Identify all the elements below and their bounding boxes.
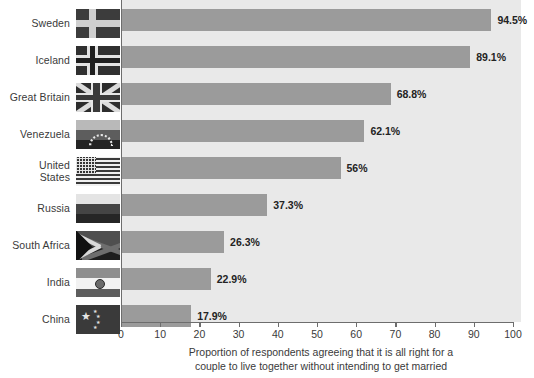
x-tick-label: 0 [118, 328, 124, 340]
china-flag: ★★★★★ [75, 304, 121, 335]
bar-great-britain [121, 83, 391, 105]
bar-value-label: 89.1% [470, 46, 506, 68]
sweden-flag [75, 8, 121, 39]
x-tick-label: 100 [504, 328, 522, 340]
x-tick [356, 323, 357, 327]
x-tick [239, 323, 240, 327]
bar-value-label: 17.9% [191, 305, 227, 327]
x-tick-label: 30 [233, 328, 245, 340]
category-row: United States [0, 153, 121, 190]
bar-value-label: 37.3% [267, 194, 303, 216]
category-label-south-africa: South Africa [12, 240, 75, 252]
y-axis-line [121, 0, 122, 323]
bar-value-label: 26.3% [224, 231, 260, 253]
iceland-flag [75, 45, 121, 76]
x-tick-label: 40 [272, 328, 284, 340]
category-label-india: India [47, 277, 75, 289]
x-tick-label: 80 [429, 328, 441, 340]
russia-flag [75, 193, 121, 224]
x-tick [474, 323, 475, 327]
x-axis-title: Proportion of respondents agreeing that … [121, 345, 521, 373]
bar-united-states [121, 157, 341, 179]
bar-venezuela [121, 120, 364, 142]
bar-south-africa [121, 231, 224, 253]
bar-value-label: 94.5% [491, 9, 527, 31]
category-label-great-britain: Great Britain [10, 92, 75, 104]
bar-value-label: 56% [341, 157, 368, 179]
bar-sweden [121, 9, 491, 31]
x-tick [395, 323, 396, 327]
category-row: India [0, 264, 121, 301]
category-row: China★★★★★ [0, 301, 121, 338]
category-label-sweden: Sweden [31, 18, 75, 30]
category-label-venezuela: Venezuela [20, 129, 75, 141]
united-states-flag [75, 156, 121, 187]
india-flag [75, 267, 121, 298]
x-tick-label: 50 [311, 328, 323, 340]
category-row: Great Britain [0, 79, 121, 116]
category-row: Russia [0, 190, 121, 227]
x-tick [317, 323, 318, 327]
x-tick [160, 323, 161, 327]
south-africa-flag [75, 230, 121, 261]
x-tick [121, 323, 122, 327]
bar-china [121, 305, 191, 327]
category-row: Venezuela [0, 116, 121, 153]
x-tick-label: 90 [468, 328, 480, 340]
category-row: Iceland [0, 42, 121, 79]
category-label-russia: Russia [37, 203, 75, 215]
bar-chart: SwedenIcelandGreat BritainVenezuelaUnite… [0, 0, 534, 378]
x-axis-title-line-2: couple to live together without intendin… [121, 359, 521, 373]
category-label-china: China [42, 314, 75, 326]
bar-value-label: 68.8% [391, 83, 427, 105]
category-label-iceland: Iceland [35, 55, 75, 67]
x-tick [199, 323, 200, 327]
category-label-united-states: United States [39, 160, 75, 183]
x-tick-label: 60 [350, 328, 362, 340]
category-row: South Africa [0, 227, 121, 264]
x-axis-title-line-1: Proportion of respondents agreeing that … [121, 345, 521, 359]
bar-value-label: 62.1% [364, 120, 400, 142]
great-britain-flag [75, 82, 121, 113]
bar-india [121, 268, 211, 290]
venezuela-flag [75, 119, 121, 150]
bar-value-label: 22.9% [211, 268, 247, 290]
x-tick-label: 10 [154, 328, 166, 340]
bar-iceland [121, 46, 470, 68]
x-tick-label: 20 [194, 328, 206, 340]
x-tick-label: 70 [390, 328, 402, 340]
x-tick [278, 323, 279, 327]
category-row: Sweden [0, 5, 121, 42]
category-axis: SwedenIcelandGreat BritainVenezuelaUnite… [0, 0, 121, 323]
bar-russia [121, 194, 267, 216]
x-tick [435, 323, 436, 327]
x-tick [513, 323, 514, 327]
